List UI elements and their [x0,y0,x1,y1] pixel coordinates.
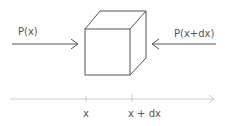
left-force-label: P(x) [18,27,38,37]
right-force-label: P(x+dx) [174,29,214,39]
cube-front-face [85,29,130,75]
cube-top-face [85,11,146,29]
x-axis [10,94,214,103]
diagram-canvas [0,0,225,126]
tick-label-x-plus-dx: x + dx [128,109,161,119]
tick-label-x: x [83,109,89,119]
cube [85,11,146,75]
left-force-arrow [12,39,78,49]
right-force-arrow [152,39,216,49]
